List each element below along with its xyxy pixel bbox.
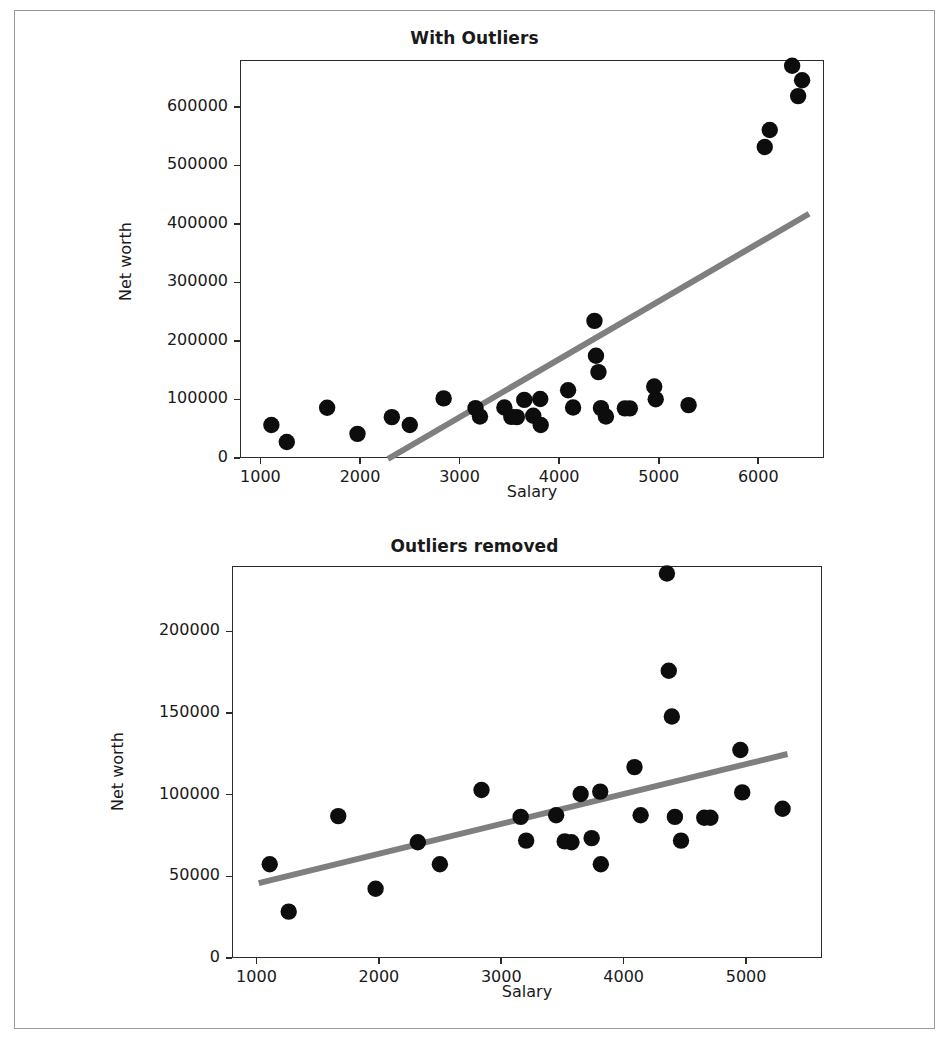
x-tick-mark [745,958,747,964]
scatter-point [516,392,532,408]
y-tick-mark [234,340,240,342]
x-tick-label: 2000 [329,967,429,986]
regression-line [388,214,809,459]
y-tick-label: 200000 [110,330,228,349]
scatter-point [435,390,451,406]
scatter-point [532,391,548,407]
panel-with-outliers: With Outliers Net worth Salary 100020003… [0,0,949,510]
y-axis-label-bottom: Net worth [108,712,127,832]
scatter-point [533,417,549,433]
y-tick-label: 100000 [102,784,220,803]
scatter-point [732,742,748,758]
x-tick-mark [757,458,759,464]
scatter-point [592,783,608,799]
scatter-point [673,832,689,848]
y-tick-mark [234,457,240,459]
x-tick-label: 5000 [609,467,709,486]
y-tick-mark [226,712,232,714]
y-tick-label: 100000 [110,388,228,407]
scatter-point [367,881,383,897]
y-tick-label: 300000 [110,271,228,290]
scatter-point [473,782,489,798]
y-tick-mark [226,794,232,796]
scatter-point [509,409,525,425]
scatter-point [349,426,365,442]
y-tick-mark [234,106,240,108]
scatter-point [410,834,426,850]
x-tick-mark [378,958,380,964]
y-tick-mark [234,282,240,284]
scatter-point [572,786,588,802]
scatter-svg-top [241,61,825,459]
scatter-point [648,391,664,407]
x-tick-label: 4000 [509,467,609,486]
x-tick-mark [459,458,461,464]
scatter-point [590,364,606,380]
y-tick-label: 150000 [102,702,220,721]
scatter-point [518,832,534,848]
y-tick-mark [234,223,240,225]
scatter-point [586,313,602,329]
scatter-point [774,801,790,817]
scatter-point [330,808,346,824]
panel-outliers-removed: Outliers removed Net worth Salary 100020… [0,510,949,1041]
scatter-point [593,856,609,872]
scatter-point [565,399,581,415]
y-tick-label: 200000 [102,620,220,639]
scatter-point [680,397,696,413]
scatter-point [632,807,648,823]
x-tick-mark [500,958,502,964]
scatter-point [262,856,278,872]
scatter-point [263,417,279,433]
x-tick-label: 1000 [210,467,310,486]
scatter-point [790,88,806,104]
x-tick-mark [623,958,625,964]
x-tick-label: 2000 [310,467,410,486]
scatter-point [588,347,604,363]
y-tick-mark [234,399,240,401]
x-tick-label: 5000 [696,967,796,986]
scatter-point [319,400,335,416]
scatter-point [472,408,488,424]
scatter-point [560,382,576,398]
x-tick-mark [658,458,660,464]
plot-area-bottom [232,566,822,958]
x-tick-label: 4000 [574,967,674,986]
y-tick-label: 600000 [110,96,228,115]
scatter-point [702,810,718,826]
scatter-svg-bottom [233,567,823,959]
figure-root: With Outliers Net worth Salary 100020003… [0,0,949,1041]
scatter-point [659,565,675,581]
scatter-point [280,903,296,919]
scatter-point [734,784,750,800]
scatter-point [626,759,642,775]
scatter-point [402,417,418,433]
scatter-point [512,809,528,825]
scatter-point [794,72,810,88]
scatter-point [667,809,683,825]
y-tick-label: 0 [102,947,220,966]
x-tick-mark [558,458,560,464]
y-tick-mark [234,165,240,167]
y-tick-label: 50000 [102,865,220,884]
scatter-point [661,663,677,679]
x-tick-mark [359,458,361,464]
scatter-point [583,830,599,846]
x-tick-label: 6000 [708,467,808,486]
x-tick-label: 3000 [410,467,510,486]
y-tick-mark [226,876,232,878]
scatter-point [598,408,614,424]
scatter-point [784,57,800,73]
scatter-point [757,139,773,155]
y-tick-label: 500000 [110,154,228,173]
x-tick-label: 3000 [451,967,551,986]
y-tick-mark [226,631,232,633]
scatter-point [664,708,680,724]
y-tick-label: 0 [110,447,228,466]
y-tick-label: 400000 [110,213,228,232]
x-tick-label: 1000 [206,967,306,986]
scatter-point [384,409,400,425]
plot-area-top [240,60,824,458]
y-tick-mark [226,957,232,959]
scatter-point [279,434,295,450]
